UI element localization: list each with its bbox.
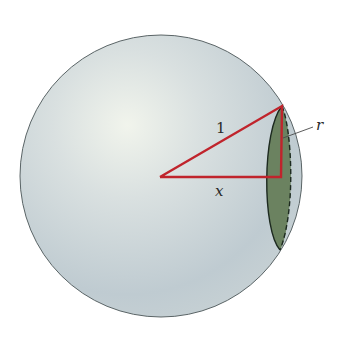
label-hypotenuse: 1	[216, 119, 226, 137]
sphere-cap-diagram: 1 x r	[0, 0, 338, 344]
label-cap-radius: r	[316, 116, 324, 134]
label-horizontal-leg: x	[215, 182, 224, 200]
